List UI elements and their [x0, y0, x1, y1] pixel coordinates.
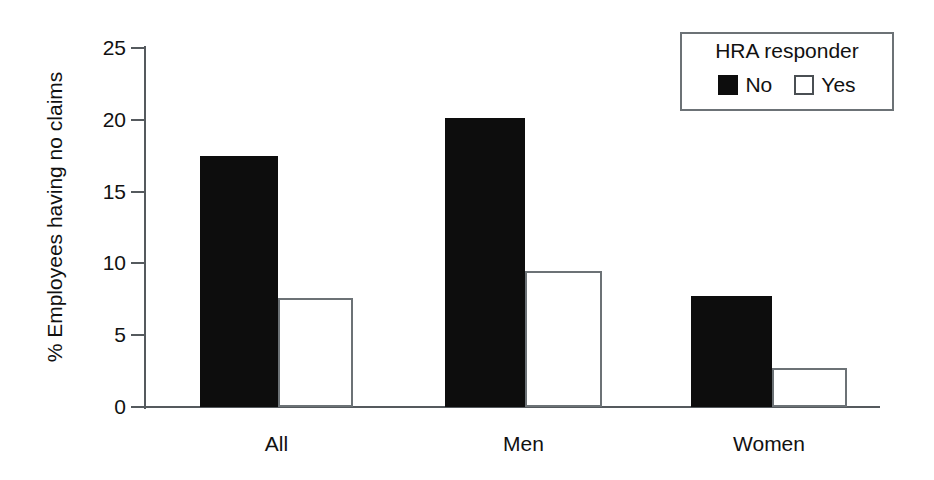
bar-men-no — [445, 118, 525, 407]
y-axis-title: % Employees having no claims — [43, 52, 67, 382]
bar-all-no — [200, 156, 278, 407]
y-tick-mark — [131, 191, 144, 193]
y-tick-mark — [131, 262, 144, 264]
y-axis-line — [144, 46, 146, 409]
y-tick-mark — [131, 119, 144, 121]
legend-title: HRA responder — [682, 39, 892, 63]
chart-figure: % Employees having no claims 0510152025 … — [0, 0, 934, 480]
bar-men-yes — [525, 271, 602, 407]
plot-area: % Employees having no claims 0510152025 … — [0, 0, 934, 480]
y-tick-label: 20 — [86, 109, 126, 130]
legend-entry-yes: Yes — [794, 74, 855, 95]
x-label-men: Men — [503, 432, 544, 456]
y-tick-label: 0 — [86, 396, 126, 417]
y-tick-label: 5 — [86, 324, 126, 345]
y-tick-mark — [131, 406, 144, 408]
y-tick-label: 10 — [86, 252, 126, 273]
hollow-square-icon — [794, 75, 814, 95]
legend-label-yes: Yes — [821, 74, 855, 95]
y-tick-label: 25 — [86, 37, 126, 58]
bar-women-no — [691, 296, 772, 407]
y-tick-mark — [131, 334, 144, 336]
x-label-all: All — [265, 432, 288, 456]
legend-label-no: No — [745, 74, 772, 95]
filled-square-icon — [718, 75, 738, 95]
bar-women-yes — [772, 368, 847, 407]
y-tick-mark — [131, 47, 144, 49]
legend-entry-no: No — [718, 74, 772, 95]
y-tick-label: 15 — [86, 181, 126, 202]
legend-box: HRA responder No Yes — [680, 32, 894, 111]
x-label-women: Women — [733, 432, 805, 456]
legend-entries: No Yes — [682, 74, 892, 95]
bar-all-yes — [278, 298, 353, 407]
